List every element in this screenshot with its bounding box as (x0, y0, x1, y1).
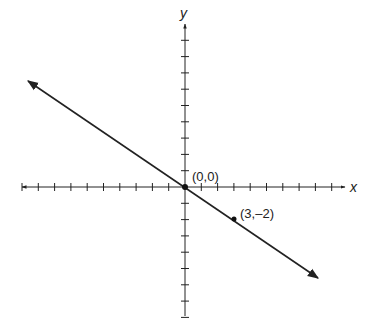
point-label: (3,–2) (240, 206, 274, 221)
x-axis-label: x (349, 179, 358, 195)
y-axis-label: y (179, 5, 188, 21)
origin-point (182, 184, 188, 190)
origin-label: (0,0) (192, 169, 219, 184)
point-3-neg2 (232, 217, 237, 222)
graphed-line (28, 81, 318, 278)
coordinate-plane: x y (0,0) (3,–2) (0, 0, 381, 323)
axis-ticks (22, 40, 332, 317)
